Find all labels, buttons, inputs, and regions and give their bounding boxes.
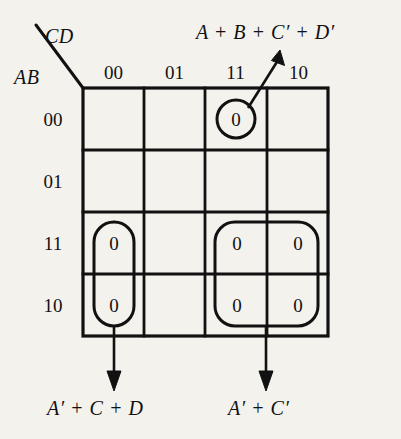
cell-r11-c10: 0 — [286, 234, 310, 253]
column-header-10: 10 — [276, 63, 321, 82]
row-header-01: 01 — [33, 172, 73, 191]
kmap-text-layer: CD AB 00 01 11 10 00 01 11 10 0 0 0 0 0 … — [0, 0, 401, 439]
row-header-10: 10 — [33, 296, 73, 315]
cell-r10-c00: 0 — [102, 296, 126, 315]
column-header-11: 11 — [213, 63, 258, 82]
karnaugh-map-diagram: CD AB 00 01 11 10 00 01 11 10 0 0 0 0 0 … — [0, 0, 401, 439]
column-header-01: 01 — [152, 63, 197, 82]
row-header-00: 00 — [33, 110, 73, 129]
annotation-top-right: A + B + C′ + D′ — [196, 22, 335, 42]
annotation-bottom-left: A′ + C + D — [47, 398, 143, 418]
cell-r10-c11: 0 — [225, 296, 249, 315]
cell-r11-c00: 0 — [102, 234, 126, 253]
annotation-bottom-right: A′ + C′ — [228, 398, 289, 418]
cell-r11-c11: 0 — [225, 234, 249, 253]
row-axis-label-ab: AB — [14, 67, 39, 87]
column-axis-label-cd: CD — [45, 26, 74, 46]
cell-r00-c11: 0 — [224, 110, 248, 129]
row-header-11: 11 — [33, 234, 73, 253]
cell-r10-c10: 0 — [286, 296, 310, 315]
column-header-00: 00 — [91, 63, 136, 82]
